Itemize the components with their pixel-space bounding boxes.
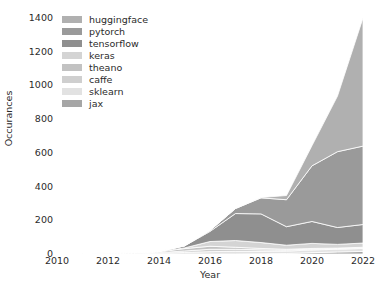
x-tick-label: 2014	[147, 255, 171, 266]
legend-item-theano[interactable]: theano	[62, 62, 148, 73]
legend-item-label: keras	[89, 50, 115, 61]
legend-item-label: caffe	[89, 74, 112, 85]
y-tick-label: 200	[35, 215, 53, 225]
y-tick-label: 1400	[29, 13, 53, 23]
x-tick-label: 2022	[351, 255, 375, 266]
x-tick-label: 2012	[96, 255, 120, 266]
legend-swatch-icon	[62, 76, 82, 83]
y-tick-label: 800	[35, 114, 53, 124]
x-tick-label: 2010	[45, 255, 69, 266]
legend-item-huggingface[interactable]: huggingface	[62, 14, 148, 25]
legend-item-jax[interactable]: jax	[62, 98, 148, 109]
legend-swatch-icon	[62, 64, 82, 71]
y-tick-label: 400	[35, 182, 53, 192]
x-tick-label: 2020	[300, 255, 324, 266]
legend-item-keras[interactable]: keras	[62, 50, 148, 61]
y-tick-label: 1000	[29, 80, 53, 90]
legend-swatch-icon	[62, 88, 82, 95]
legend-item-sklearn[interactable]: sklearn	[62, 86, 148, 97]
chart-legend: huggingfacepytorchtensorflowkerastheanoc…	[62, 14, 148, 109]
legend-item-tensorflow[interactable]: tensorflow	[62, 38, 148, 49]
chart-figure: Occurances 0200400600800100012001400 201…	[0, 0, 387, 293]
legend-item-label: tensorflow	[89, 38, 139, 49]
legend-swatch-icon	[62, 16, 82, 23]
y-axis: Occurances 0200400600800100012001400	[0, 18, 53, 254]
legend-item-label: huggingface	[89, 14, 148, 25]
legend-item-label: jax	[89, 98, 103, 109]
x-tick-label: 2018	[249, 255, 273, 266]
legend-item-pytorch[interactable]: pytorch	[62, 26, 148, 37]
legend-item-label: sklearn	[89, 86, 124, 97]
y-tick-label: 600	[35, 148, 53, 158]
x-axis-label: Year	[57, 269, 363, 280]
x-axis: 2010201220142016201820202022	[57, 255, 363, 269]
legend-swatch-icon	[62, 52, 82, 59]
legend-item-caffe[interactable]: caffe	[62, 74, 148, 85]
y-tick-label: 1200	[29, 47, 53, 57]
legend-swatch-icon	[62, 40, 82, 47]
legend-item-label: theano	[89, 62, 122, 73]
y-axis-label: Occurances	[3, 59, 14, 179]
legend-swatch-icon	[62, 28, 82, 35]
legend-swatch-icon	[62, 100, 82, 107]
legend-item-label: pytorch	[89, 26, 125, 37]
x-tick-label: 2016	[198, 255, 222, 266]
